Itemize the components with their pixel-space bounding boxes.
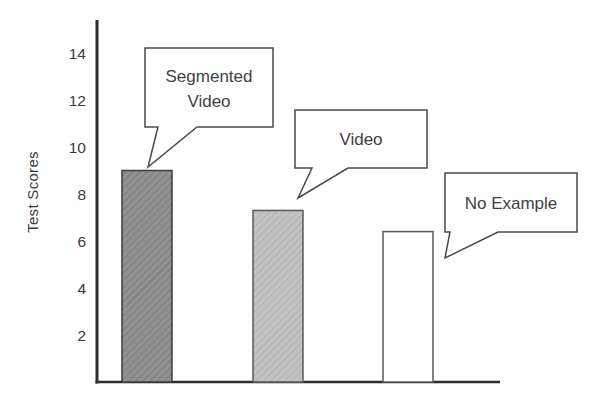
callout-2 xyxy=(295,110,427,198)
y-tick-label: 12 xyxy=(69,92,86,109)
y-tick-label: 8 xyxy=(77,186,86,203)
y-tick-label: 6 xyxy=(77,233,86,250)
y-tick-label: 4 xyxy=(77,280,86,297)
bar-1 xyxy=(122,171,172,383)
bar-3 xyxy=(383,232,433,382)
y-tick-label: 14 xyxy=(69,45,87,62)
y-tick-label: 2 xyxy=(77,327,86,344)
scanned-bar-chart-figure: 2468101214SegmentedVideoVideoNo Example … xyxy=(0,0,607,413)
plot-area: 2468101214SegmentedVideoVideoNo Example xyxy=(69,20,577,384)
y-axis-title: Test Scores xyxy=(24,151,41,233)
callout-label-3: No Example xyxy=(465,194,558,213)
callout-label-2: Video xyxy=(339,130,382,149)
y-tick-label: 10 xyxy=(69,139,87,156)
bar-chart: 2468101214SegmentedVideoVideoNo Example … xyxy=(0,0,607,413)
bar-2 xyxy=(253,210,303,382)
callout-3 xyxy=(445,173,577,258)
